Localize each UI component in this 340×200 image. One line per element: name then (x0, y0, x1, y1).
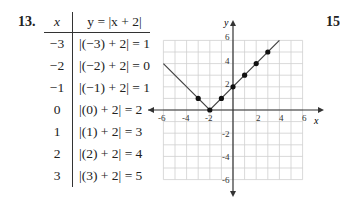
svg-text:-2: -2 (205, 113, 213, 123)
y-axis-arrow-down-icon (230, 191, 236, 197)
svg-text:-4: -4 (182, 113, 190, 123)
data-point (242, 73, 247, 78)
svg-text:2: 2 (225, 79, 230, 89)
data-point (254, 61, 259, 66)
data-point (230, 84, 235, 89)
svg-text:2: 2 (256, 113, 261, 123)
svg-text:6: 6 (225, 32, 230, 42)
data-point (196, 96, 201, 101)
x-axis-arrow-right-icon (318, 107, 324, 113)
x-axis (148, 107, 324, 113)
x-axis-arrow-left-icon (148, 107, 154, 113)
svg-text:6: 6 (302, 113, 307, 123)
data-point (219, 96, 224, 101)
y-axis-arrow-up-icon (230, 20, 236, 26)
svg-text:-4: -4 (222, 152, 230, 162)
x-axis-label: x (313, 115, 319, 126)
y-tick-labels: 6 4 2 -2 -4 -6 (222, 32, 230, 185)
svg-text:-2: -2 (222, 129, 230, 139)
data-point (207, 107, 212, 112)
y-axis-label: y (223, 17, 229, 28)
svg-text:-6: -6 (158, 113, 166, 123)
svg-text:-6: -6 (222, 175, 230, 185)
svg-text:4: 4 (279, 113, 284, 123)
data-point (265, 49, 270, 54)
svg-text:4: 4 (225, 56, 230, 66)
y-axis (230, 20, 236, 197)
